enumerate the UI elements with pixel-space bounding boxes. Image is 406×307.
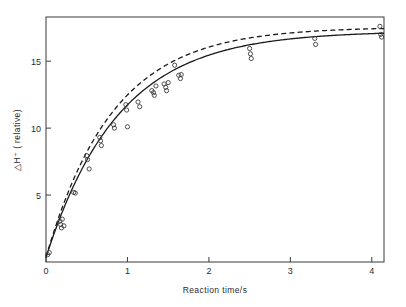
chart-figure: 01234 51015 Reaction time/s △H⁺ ( relati… bbox=[0, 0, 406, 307]
x-tick-label: 3 bbox=[288, 266, 293, 276]
x-tick-label: 0 bbox=[43, 266, 48, 276]
y-axis-title: △H⁺ ( relative) bbox=[12, 109, 22, 171]
x-tick-label: 2 bbox=[206, 266, 211, 276]
y-tick-label: 5 bbox=[36, 191, 41, 201]
y-tick-label: 10 bbox=[31, 124, 41, 134]
reaction-time-enthalpy-plot: 01234 51015 Reaction time/s △H⁺ ( relati… bbox=[0, 0, 406, 307]
x-tick-label: 1 bbox=[125, 266, 130, 276]
x-tick-label: 4 bbox=[369, 266, 374, 276]
y-tick-label: 15 bbox=[31, 57, 41, 67]
chart-background bbox=[0, 0, 406, 307]
x-axis-title: Reaction time/s bbox=[183, 285, 248, 295]
